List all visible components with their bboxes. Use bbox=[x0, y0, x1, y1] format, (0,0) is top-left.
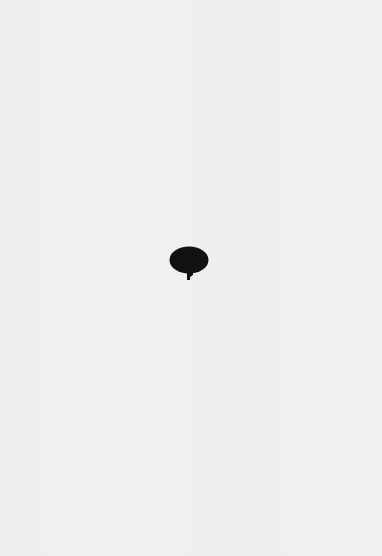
blank-page bbox=[0, 0, 382, 556]
speech-bubble-icon bbox=[169, 246, 209, 282]
